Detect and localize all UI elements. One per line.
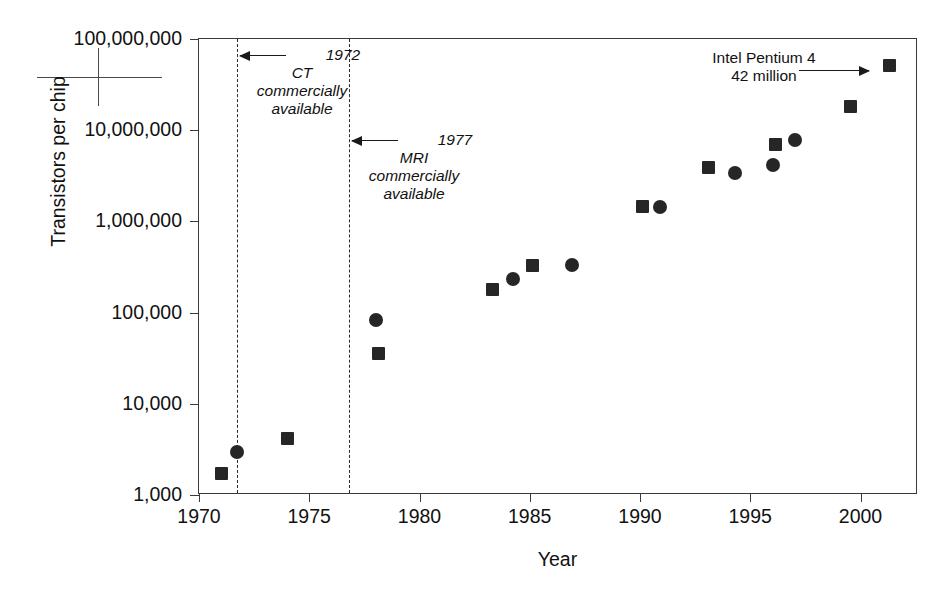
- data-point-motorola-1997: [788, 133, 802, 147]
- x-tick-label-1995: 1995: [705, 507, 795, 527]
- y-tick-label-100000: 100,000: [0, 303, 182, 323]
- plot-area: 100,000,000 10,000,000 1,000,000 100,000…: [198, 38, 917, 494]
- y-tick-100000: [190, 313, 199, 314]
- data-point-intel-1983: [486, 283, 499, 296]
- y-tick-100000000: [190, 39, 199, 40]
- x-tick-label-1985: 1985: [485, 507, 575, 527]
- ct-annotation-line-3: commercially: [207, 82, 397, 100]
- x-tick-label-1980: 1980: [375, 507, 465, 527]
- y-tick-label-10000000: 10,000,000: [0, 120, 182, 140]
- transistor-count-chart: Transistors per chip Year 100,000,000 10…: [0, 0, 949, 591]
- x-tick-1995: [750, 493, 751, 502]
- pentium4-annotation-arrow: [799, 70, 869, 71]
- data-point-intel-1971: [215, 467, 228, 480]
- ct-annotation-line-2: CT: [207, 64, 397, 82]
- pentium4-annotation-line-1: Intel Pentium 4: [669, 49, 859, 67]
- data-point-motorola-1994: [728, 166, 742, 180]
- x-tick-label-1990: 1990: [595, 507, 685, 527]
- mri-annotation: 1977 MRI commercially available: [319, 131, 509, 203]
- y-tick-10000: [190, 404, 199, 405]
- ct-annotation-line-4: available: [207, 100, 397, 118]
- y-tick-10000000: [190, 130, 199, 131]
- y-tick-1000: [190, 495, 199, 496]
- data-point-motorola-1996: [766, 158, 780, 172]
- data-point-motorola-1978: [369, 313, 383, 327]
- data-point-intel-1974: [281, 432, 294, 445]
- x-tick-label-1970: 1970: [154, 507, 244, 527]
- x-tick-2000: [861, 493, 862, 502]
- y-tick-label-1000000: 1,000,000: [0, 211, 182, 231]
- ct-annotation-line-1: 1972: [207, 46, 397, 64]
- data-point-motorola-1987: [565, 258, 579, 272]
- data-point-motorola-1984: [506, 272, 520, 286]
- mri-annotation-line-2: MRI: [319, 149, 509, 167]
- ct-annotation: 1972 CT commercially available: [207, 46, 397, 118]
- pentium4-annotation: Intel Pentium 4 42 million: [669, 49, 859, 85]
- x-axis-label: Year: [198, 548, 917, 571]
- data-point-intel-1999: [844, 100, 857, 113]
- y-tick-label-10000: 10,000: [0, 394, 182, 414]
- mri-annotation-line-3: commercially: [319, 167, 509, 185]
- data-point-motorola-1971: [230, 445, 244, 459]
- x-tick-1970: [199, 493, 200, 502]
- x-tick-1990: [640, 493, 641, 502]
- data-point-intel-1990: [636, 200, 649, 213]
- x-tick-1985: [530, 493, 531, 502]
- arrow-head-right-icon: [859, 66, 870, 76]
- data-point-intel-1978: [372, 347, 385, 360]
- y-tick-label-100000000: 100,000,000: [0, 29, 182, 49]
- mri-annotation-line-4: available: [319, 185, 509, 203]
- data-point-intel-1985: [526, 259, 539, 272]
- data-point-motorola-1990: [653, 200, 667, 214]
- y-tick-label-1000: 1,000: [0, 485, 182, 505]
- y-axis-label: Transistors per chip: [47, 32, 70, 292]
- x-tick-label-2000: 2000: [816, 507, 906, 527]
- crosshair-artifact-vertical: [98, 48, 99, 106]
- x-tick-label-1975: 1975: [264, 507, 354, 527]
- data-point-intel-1993: [702, 161, 715, 174]
- data-point-intel-1996: [769, 138, 782, 151]
- y-tick-1000000: [190, 221, 199, 222]
- mri-annotation-line-1: 1977: [319, 131, 509, 149]
- x-tick-1975: [309, 493, 310, 502]
- data-point-intel-2001-pentium4: [883, 59, 896, 72]
- x-tick-1980: [420, 493, 421, 502]
